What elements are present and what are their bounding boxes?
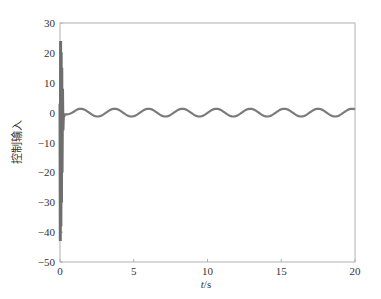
x-tick-label: 15 (276, 265, 288, 277)
axes-frame (60, 23, 355, 262)
x-tick-label: 20 (350, 265, 362, 277)
x-tick-label: 5 (131, 265, 137, 277)
y-tick-label: 0 (50, 107, 56, 119)
y-tick-label: −40 (38, 226, 56, 238)
x-tick-label: 0 (57, 265, 63, 277)
x-tick-label: 10 (202, 265, 214, 277)
y-tick-label: 10 (44, 77, 56, 89)
plot-area (60, 23, 355, 262)
y-tick-label: −20 (38, 166, 56, 178)
y-tick-label: 20 (44, 47, 56, 59)
data-series (60, 41, 355, 241)
y-tick-label: 30 (44, 17, 56, 29)
control-input-line (64, 109, 355, 117)
x-axis-label-unit: /s (204, 278, 211, 290)
y-tick-label: −30 (38, 196, 56, 208)
y-axis-label: 控制输入 (10, 120, 23, 164)
transient-spike (60, 41, 64, 241)
line-chart: 05101520 3020100−10−20−30−40−50 t/s 控制输入 (0, 0, 381, 299)
y-tick-label: −50 (38, 256, 56, 268)
y-tick-label: −10 (38, 137, 56, 149)
x-axis-label: t/s (201, 278, 211, 290)
